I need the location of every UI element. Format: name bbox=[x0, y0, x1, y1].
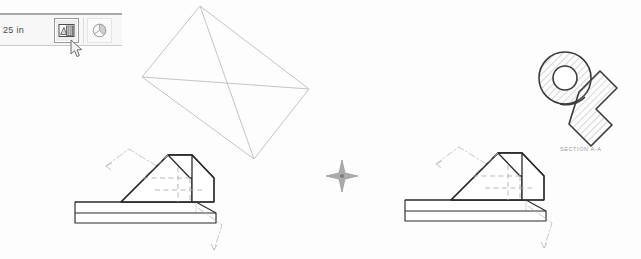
wedge-on-slab-right[interactable] bbox=[405, 147, 552, 248]
drawing-canvas[interactable]: SECTION A-A 25 in bbox=[0, 0, 641, 259]
dimension-readout: 25 in bbox=[0, 25, 51, 35]
center-crosshair-marker[interactable] bbox=[326, 160, 358, 192]
pie-section-icon bbox=[91, 22, 108, 39]
wedge-on-slab-left[interactable] bbox=[75, 149, 222, 250]
toolbar[interactable]: 25 in bbox=[0, 13, 122, 46]
section-view-button[interactable] bbox=[87, 18, 112, 43]
base-slab bbox=[75, 202, 216, 223]
wireframe-quadrilateral[interactable] bbox=[142, 6, 309, 159]
leader-arrowhead-upper bbox=[436, 161, 442, 168]
base-slab bbox=[405, 200, 546, 221]
mouse-pointer-icon bbox=[70, 40, 84, 58]
hatched-section-view[interactable] bbox=[539, 52, 617, 146]
shaded-render-icon bbox=[58, 22, 75, 39]
leader-arrowhead-upper bbox=[106, 163, 112, 170]
wedge-solid bbox=[451, 153, 544, 200]
wedge-solid bbox=[121, 155, 214, 202]
render-shaded-button[interactable] bbox=[54, 18, 79, 43]
section-ring-hole bbox=[553, 66, 577, 90]
section-view-label: SECTION A-A bbox=[560, 146, 601, 152]
